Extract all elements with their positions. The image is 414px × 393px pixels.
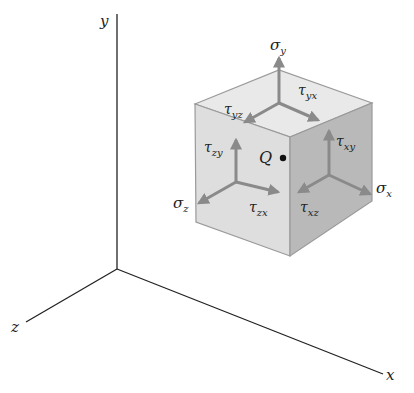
point-q-label: Q [259, 148, 272, 167]
sigma-z-label: σz [173, 194, 189, 214]
y-axis-label: y [99, 12, 109, 30]
sigma-x-label: σx [376, 179, 392, 199]
sigma-y-label: σy [270, 36, 286, 56]
z-axis-label: z [10, 318, 19, 336]
point-q-dot [280, 155, 286, 161]
x-axis-line [117, 269, 383, 374]
x-axis-label: x [386, 366, 395, 384]
stress-element-diagram: y x z σy τyx τyz τzy σz τzx τxy σx τxz Q [0, 0, 414, 393]
z-axis-line [26, 269, 117, 322]
stress-cube [195, 70, 372, 256]
